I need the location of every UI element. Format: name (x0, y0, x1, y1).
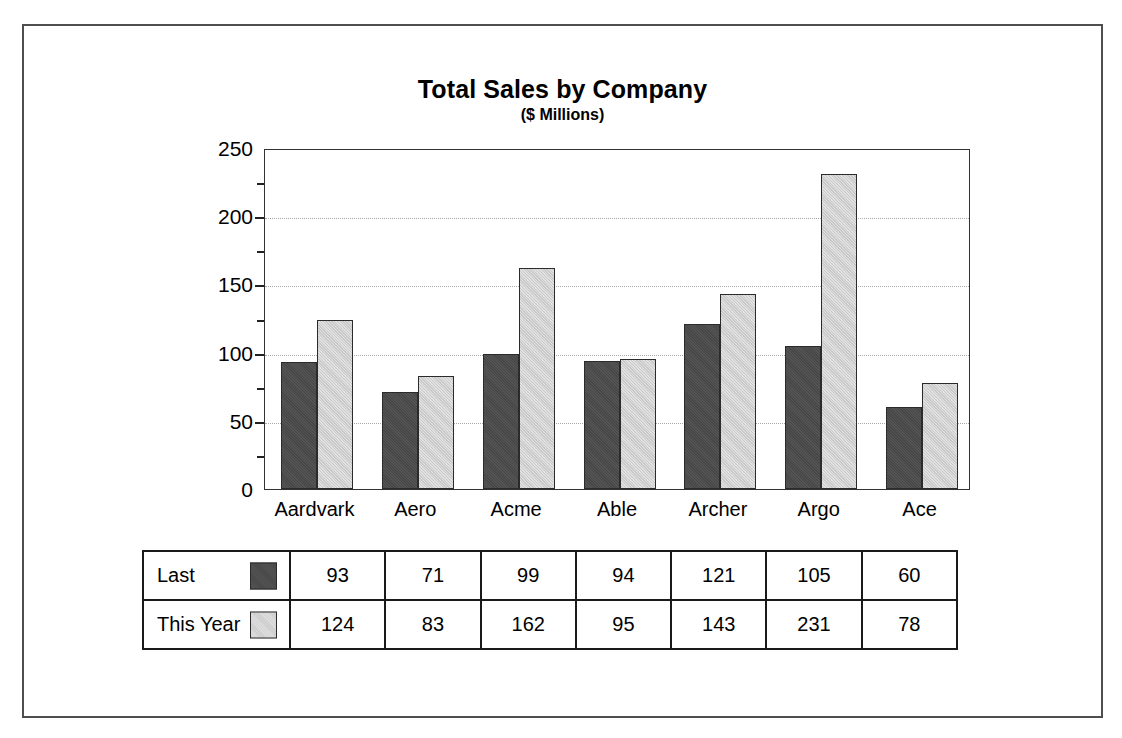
table-cell: 93 (290, 551, 385, 600)
y-axis-tick-major (255, 354, 264, 356)
bar (620, 359, 656, 489)
y-axis-tick-minor (257, 251, 264, 253)
bar (483, 354, 519, 489)
x-axis-category-label: Archer (688, 498, 747, 521)
y-axis-tick-major (255, 285, 264, 287)
table-cell: 105 (766, 551, 861, 600)
title-block: Total Sales by Company ($ Millions) (24, 76, 1101, 124)
x-axis-category-label: Ace (902, 498, 936, 521)
table-cell: 99 (481, 551, 576, 600)
page-title: Total Sales by Company (24, 76, 1101, 103)
bar (821, 174, 857, 489)
y-axis-tick-label: 50 (230, 410, 253, 434)
table-row: Last9371999412110560 (143, 551, 957, 600)
bar-group (366, 150, 467, 489)
y-axis-tick-minor (257, 183, 264, 185)
bar (584, 361, 620, 489)
y-axis-tick-label: 0 (241, 478, 253, 502)
plot-area (264, 149, 970, 490)
chart-subtitle: ($ Millions) (24, 106, 1101, 124)
legend-label: Last (157, 564, 195, 586)
bar (418, 376, 454, 489)
x-axis-category-label: Acme (491, 498, 542, 521)
table-row: This Year124831629514323178 (143, 600, 957, 649)
table-cell: 95 (576, 600, 671, 649)
bar (720, 294, 756, 489)
y-axis-tick-label: 100 (218, 342, 253, 366)
y-axis-tick-major (255, 422, 264, 424)
table-cell: 162 (481, 600, 576, 649)
y-axis-tick-minor (257, 456, 264, 458)
bar (886, 407, 922, 489)
y-axis-tick-major (255, 217, 264, 219)
plot-wrapper: 050100150200250 (264, 149, 970, 490)
bar (317, 320, 353, 489)
bars-layer (265, 150, 969, 489)
x-axis-category-label: Argo (798, 498, 840, 521)
x-axis-category-label: Able (597, 498, 637, 521)
bar (281, 362, 317, 489)
bar-group (668, 150, 769, 489)
y-axis-tick-label: 250 (218, 137, 253, 161)
data-table-body: Last9371999412110560This Year12483162951… (143, 551, 957, 649)
table-cell: 78 (862, 600, 957, 649)
bar-group (467, 150, 568, 489)
table-cell: 94 (576, 551, 671, 600)
bar (684, 324, 720, 489)
table-cell: 124 (290, 600, 385, 649)
table-cell: 231 (766, 600, 861, 649)
legend-label: This Year (157, 613, 240, 635)
x-axis-labels: AardvarkAeroAcmeAbleArcherArgoAce (264, 498, 970, 528)
bar-group (870, 150, 970, 489)
bar-group (769, 150, 870, 489)
x-axis-category-label: Aero (394, 498, 436, 521)
x-axis-category-label: Aardvark (274, 498, 354, 521)
light-swatch-icon (250, 611, 277, 638)
bar-group (265, 150, 366, 489)
bar (519, 268, 555, 489)
y-axis-tick-label: 150 (218, 273, 253, 297)
y-axis-tick-label: 200 (218, 205, 253, 229)
y-axis-tick-minor (257, 320, 264, 322)
table-row-header: This Year (143, 600, 290, 649)
bar (785, 346, 821, 489)
table-row-header: Last (143, 551, 290, 600)
table-cell: 71 (385, 551, 480, 600)
chart-page: Total Sales by Company ($ Millions) 0501… (0, 0, 1122, 738)
table-cell: 143 (671, 600, 766, 649)
bar (382, 392, 418, 489)
dark-swatch-icon (250, 562, 277, 589)
data-table: Last9371999412110560This Year12483162951… (142, 550, 958, 650)
table-cell: 83 (385, 600, 480, 649)
bar-group (568, 150, 669, 489)
figure-frame: Total Sales by Company ($ Millions) 0501… (22, 24, 1103, 718)
table-cell: 60 (862, 551, 957, 600)
y-axis-tick-minor (257, 388, 264, 390)
table-cell: 121 (671, 551, 766, 600)
bar (922, 383, 958, 489)
